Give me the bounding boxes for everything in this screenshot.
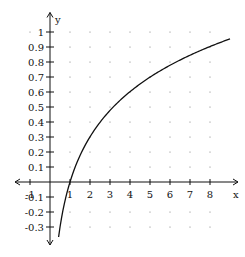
grid-dot (129, 166, 130, 167)
grid-dot (149, 226, 150, 227)
grid-dot (189, 166, 190, 167)
grid-dot (109, 121, 110, 122)
grid-dot (189, 106, 190, 107)
grid-dot (129, 106, 130, 107)
y-tick-label: -0.1 (25, 192, 44, 203)
grid-dot (109, 31, 110, 32)
grid-dot (129, 76, 130, 77)
grid-dot (89, 46, 90, 47)
grid-dot (109, 76, 110, 77)
grid-dot (149, 151, 150, 152)
grid-dot (169, 166, 170, 167)
grid-dot (149, 91, 150, 92)
grid-dot (189, 76, 190, 77)
grid-dot (169, 61, 170, 62)
grid-dot (209, 76, 210, 77)
grid-dot (149, 46, 150, 47)
grid-dot (169, 151, 170, 152)
grid-dot (89, 211, 90, 212)
grid-dot (69, 151, 70, 152)
grid-dot (129, 136, 130, 137)
grid-dot (69, 61, 70, 62)
grid-dot (89, 76, 90, 77)
grid-dot (169, 211, 170, 212)
log-curve (59, 39, 230, 237)
grid-dot (69, 166, 70, 167)
grid-dot (89, 91, 90, 92)
y-tick-label: 0.5 (28, 102, 44, 113)
grid-dot (69, 211, 70, 212)
grid-dot (69, 31, 70, 32)
grid-dot (129, 31, 130, 32)
grid-dot (149, 166, 150, 167)
grid-dot (209, 226, 210, 227)
grid-dot (169, 91, 170, 92)
grid-dot (69, 121, 70, 122)
x-tick-label: 5 (147, 189, 153, 200)
grid-dot (169, 31, 170, 32)
grid-dot (89, 61, 90, 62)
grid-dot (149, 31, 150, 32)
log-function-plot: -11234567810.90.80.70.60.50.40.30.20.1-0… (0, 0, 245, 257)
grid-dot (169, 226, 170, 227)
grid-dot (149, 211, 150, 212)
grid-dot (109, 106, 110, 107)
x-tick-label: 8 (207, 189, 213, 200)
grid-dot (89, 226, 90, 227)
grid-dot (129, 121, 130, 122)
y-tick-label: 0.7 (28, 72, 44, 83)
grid-dot (109, 61, 110, 62)
grid-dot (209, 136, 210, 137)
grid-dot (29, 31, 30, 32)
grid-dot (169, 136, 170, 137)
grid-dot (189, 211, 190, 212)
grid-dot (69, 76, 70, 77)
grid-dot (129, 211, 130, 212)
grid-dot (189, 61, 190, 62)
y-tick-label: 0.8 (28, 57, 44, 68)
x-tick-label: 3 (107, 189, 113, 200)
x-axis-label: x (233, 189, 239, 200)
grid-dot (209, 121, 210, 122)
y-tick-label: 0.4 (28, 117, 44, 128)
grid-dot (109, 211, 110, 212)
grid-dot (69, 46, 70, 47)
grid-dot (149, 121, 150, 122)
y-tick-label: 0.3 (28, 132, 44, 143)
y-tick-label: 0.1 (28, 162, 44, 173)
grid-dot (149, 136, 150, 137)
grid-dot (169, 106, 170, 107)
x-tick-label: 2 (87, 189, 93, 200)
grid-dot (69, 226, 70, 227)
y-tick-label: 0.2 (28, 147, 44, 158)
grid-dot (209, 106, 210, 107)
y-tick-label: 0.6 (28, 87, 44, 98)
grid-dot (129, 46, 130, 47)
grid-dot (209, 61, 210, 62)
grid-dot (109, 166, 110, 167)
grid-dot (109, 151, 110, 152)
grid-dot (169, 121, 170, 122)
grid-dot (209, 166, 210, 167)
grid-dot (89, 106, 90, 107)
grid-dot (169, 76, 170, 77)
grid-dot (69, 106, 70, 107)
y-tick-label: 0.9 (28, 42, 44, 53)
grid-dot (109, 136, 110, 137)
grid-dot (69, 136, 70, 137)
grid-dot (89, 121, 90, 122)
ticks (30, 32, 210, 227)
grid-dot (189, 151, 190, 152)
grid-dot (109, 46, 110, 47)
y-tick-label: 1 (38, 27, 44, 38)
grid-dot (189, 46, 190, 47)
grid-dot (169, 46, 170, 47)
x-tick-label: 4 (127, 189, 133, 200)
grid-dot (89, 31, 90, 32)
grid-dot (189, 91, 190, 92)
grid-dot (189, 121, 190, 122)
y-tick-label: -0.3 (25, 222, 44, 233)
x-tick-label: 6 (167, 189, 173, 200)
dot-grid (29, 31, 210, 227)
grid-dot (149, 106, 150, 107)
